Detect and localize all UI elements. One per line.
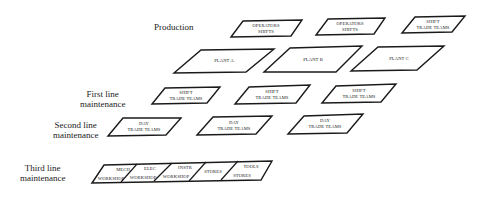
box-stores: STORES	[204, 169, 222, 174]
box-shift-trade-teams-first-1: SHIFT TRADE TEAMS	[152, 87, 220, 104]
box-operators-shifts-2: OPERATORS SHIFTS	[316, 18, 385, 35]
box-text: SHIFT	[352, 88, 365, 93]
box-text: MECH	[116, 167, 130, 172]
box-text: TOOLS	[243, 164, 259, 169]
box-text: TRADE TEAMS	[169, 96, 202, 101]
box-text: DAY	[229, 120, 239, 125]
box-text: PLANT A	[214, 58, 234, 63]
box-text: PLANT C	[389, 56, 409, 61]
box-text: SHIFTS	[258, 29, 274, 34]
box-plant-c: PLANT C	[351, 46, 444, 71]
box-plant-a: PLANT A	[174, 49, 274, 73]
box-text: TRADE TEAMS	[127, 127, 160, 132]
box-text: SHIFT	[265, 89, 278, 94]
box-text: TRADE TEAMS	[342, 94, 375, 99]
box-text: DAY	[320, 118, 330, 123]
box-text: STORES	[233, 173, 251, 178]
box-text: WORKSHOP	[98, 176, 125, 181]
box-text: TRADE TEAMS	[217, 126, 250, 131]
box-day-trade-teams-2: DAY TRADE TEAMS	[197, 116, 272, 135]
diagram-canvas: OPERATORS SHIFTS OPERATORS SHIFTS SHIFT …	[0, 0, 480, 202]
third-line-strip: MECH WORKSHOP ELEC WORKSHOP INSTR WORKSH…	[92, 161, 272, 183]
box-text: TRADE TEAMS	[416, 25, 449, 30]
box-text: SHIFTS	[342, 27, 358, 32]
box-text: OPERATORS	[336, 21, 363, 26]
box-plant-b: PLANT B	[264, 46, 362, 72]
box-text: OPERATORS	[252, 23, 279, 28]
box-text: STORES	[204, 169, 222, 174]
box-day-trade-teams-1: DAY TRADE TEAMS	[108, 118, 181, 136]
box-shift-trade-teams-production: SHIFT TRADE TEAMS	[402, 16, 465, 33]
box-text: SHIFT	[179, 90, 192, 95]
box-text: TRADE TEAMS	[308, 124, 341, 129]
box-text: DAY	[139, 121, 149, 126]
box-text: PLANT B	[303, 57, 323, 62]
box-text: WORKSHOP	[130, 175, 157, 180]
box-text: SHIFT	[426, 19, 439, 24]
box-text: ELEC	[144, 166, 156, 171]
box-text: WORKSHOP	[163, 174, 190, 179]
box-text: TRADE TEAMS	[255, 95, 288, 100]
box-day-trade-teams-3: DAY TRADE TEAMS	[288, 114, 363, 134]
maintenance-structure-diagram: Production First line maintenance Second…	[0, 0, 480, 202]
box-text: INSTR	[178, 165, 193, 170]
box-shift-trade-teams-first-2: SHIFT TRADE TEAMS	[235, 85, 310, 104]
box-operators-shifts-1: OPERATORS SHIFTS	[231, 20, 302, 37]
box-shift-trade-teams-first-3: SHIFT TRADE TEAMS	[322, 84, 396, 103]
